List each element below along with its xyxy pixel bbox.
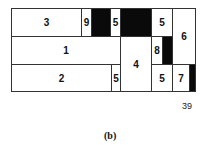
filled-block	[189, 64, 196, 92]
numbered-block: 5	[151, 8, 173, 37]
numbered-block: 4	[120, 36, 152, 92]
filled-block	[162, 36, 173, 65]
numbered-block: 2	[11, 64, 112, 92]
numbered-block: 5	[151, 64, 173, 92]
figure-caption: (b)	[104, 130, 116, 141]
numbered-block: 6	[172, 8, 196, 65]
numbered-block: 7	[172, 64, 190, 92]
numbered-block: 3	[11, 8, 82, 37]
width-label: 39	[182, 101, 192, 111]
filled-block	[91, 8, 111, 37]
numbered-block: 1	[11, 36, 121, 65]
numbered-block: 5	[111, 64, 121, 92]
filled-block	[120, 8, 152, 37]
